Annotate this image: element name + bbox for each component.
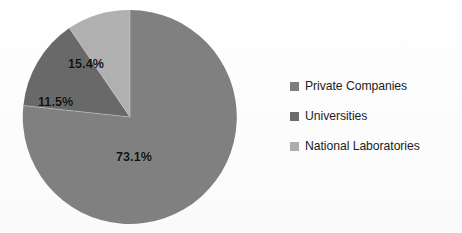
pie-chart-area: 73.1% 11.5% 15.4% <box>0 0 262 233</box>
legend-swatch-icon-national-laboratories <box>290 142 299 151</box>
pie-label-universities: 11.5% <box>38 95 73 109</box>
legend-label-universities: Universities <box>305 110 367 123</box>
legend-item-national-laboratories: National Laboratories <box>290 131 456 161</box>
legend-label-private-companies: Private Companies <box>305 80 407 93</box>
legend-label-national-laboratories: National Laboratories <box>305 140 420 153</box>
pie-chart-figure: 73.1% 11.5% 15.4% Private Companies Univ… <box>0 0 462 233</box>
chart-legend: Private Companies Universities National … <box>290 71 456 161</box>
legend-swatch-icon-private-companies <box>290 82 299 91</box>
pie-chart-graphic <box>0 0 262 233</box>
pie-label-private-companies: 73.1% <box>116 150 152 164</box>
legend-item-universities: Universities <box>290 101 456 131</box>
legend-swatch-icon-universities <box>290 112 299 121</box>
legend-item-private-companies: Private Companies <box>290 71 456 101</box>
pie-label-national-laboratories: 15.4% <box>68 57 104 71</box>
